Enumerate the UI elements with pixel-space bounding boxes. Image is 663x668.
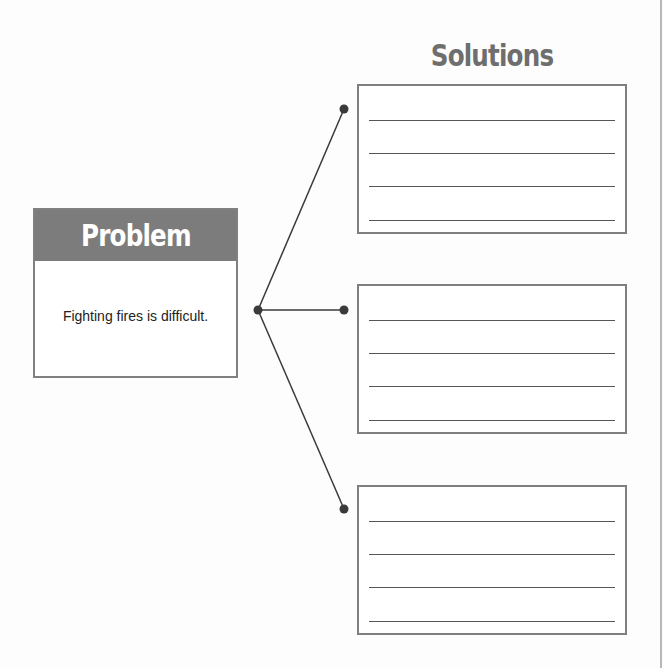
writing-line bbox=[369, 521, 615, 522]
solution-box-2[interactable] bbox=[357, 284, 627, 434]
writing-line bbox=[369, 621, 615, 622]
writing-line bbox=[369, 386, 615, 387]
hub-dot bbox=[254, 306, 263, 315]
writing-line bbox=[369, 353, 615, 354]
solution-box-1[interactable] bbox=[357, 84, 627, 234]
writing-line bbox=[369, 554, 615, 555]
endpoint-dot bbox=[340, 306, 349, 315]
writing-line bbox=[369, 587, 615, 588]
writing-line bbox=[369, 153, 615, 154]
writing-line bbox=[369, 120, 615, 121]
endpoint-dot bbox=[340, 505, 349, 514]
writing-line bbox=[369, 186, 615, 187]
solution-box-3[interactable] bbox=[357, 485, 627, 635]
writing-line bbox=[369, 320, 615, 321]
endpoint-dot bbox=[340, 105, 349, 114]
writing-line bbox=[369, 220, 615, 221]
writing-line bbox=[369, 420, 615, 421]
